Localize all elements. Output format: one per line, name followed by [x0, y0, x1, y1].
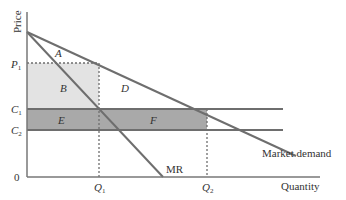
area-e-label: E: [57, 114, 65, 126]
q1-label: Q1: [94, 181, 106, 195]
c1-label: C1: [11, 103, 22, 117]
monopoly-diagram: Price Quantity 0 P1 C1 C2 Q1 Q2 Market d…: [0, 0, 346, 200]
area-a-label: A: [54, 47, 62, 59]
p1-label: P1: [10, 58, 22, 72]
area-b-label: B: [60, 82, 67, 94]
demand-label: Market demand: [262, 147, 332, 159]
area-d-label: D: [120, 82, 129, 94]
c2-label: C2: [11, 124, 22, 138]
area-f-label: F: [149, 114, 157, 126]
x-axis-label: Quantity: [281, 180, 320, 192]
q2-label: Q2: [202, 181, 214, 195]
y-axis-label: Price: [11, 10, 23, 33]
mr-label: MR: [166, 163, 184, 175]
origin-label: 0: [14, 171, 20, 183]
